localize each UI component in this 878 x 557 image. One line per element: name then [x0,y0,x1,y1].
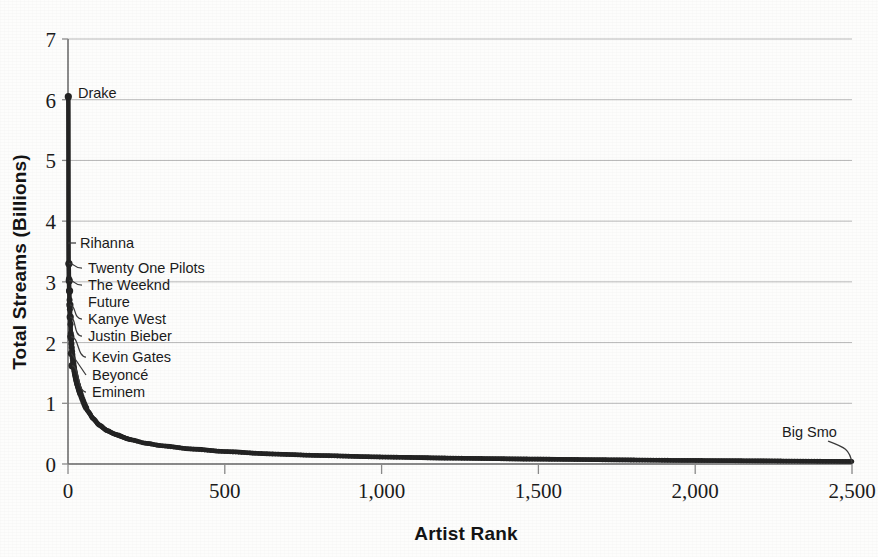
x-tick-label: 2,000 [672,479,719,503]
x-axis-ticks: 05001,0001,5002,0002,500 [63,464,876,503]
artist-label: Big Smo [782,424,837,440]
annotated-data-point [65,93,72,100]
data-points [65,93,854,464]
x-tick-label: 2,500 [828,479,875,503]
y-tick-label: 1 [46,392,57,416]
x-axis-title: Artist Rank [414,523,518,544]
y-tick-label: 6 [46,89,57,113]
x-tick-label: 1,500 [515,479,562,503]
x-tick-label: 0 [63,479,74,503]
annotated-data-point [66,301,73,308]
streams-vs-rank-chart: 01234567 05001,0001,5002,0002,500 DrakeR… [0,0,878,557]
artist-label: Future [88,294,130,310]
y-tick-label: 2 [46,332,57,356]
y-tick-label: 0 [46,453,57,477]
annotated-data-point [66,287,73,294]
streams-curve [68,97,852,462]
artist-label: Justin Bieber [88,328,172,344]
artist-label: Eminem [92,384,145,400]
artist-label: Beyoncé [92,367,148,383]
annotation-leader-lines [68,243,852,463]
y-tick-label: 5 [46,149,57,173]
x-tick-label: 1,000 [358,479,405,503]
artist-label: Drake [78,85,117,101]
y-axis-ticks: 01234567 [46,28,69,477]
artist-label: Twenty One Pilots [88,260,205,276]
annotation-labels: DrakeRihannaTwenty One PilotsThe WeekndF… [78,85,837,440]
artist-label: Kanye West [88,311,166,327]
artist-label: Kevin Gates [92,349,171,365]
data-curve [68,97,852,462]
y-tick-label: 3 [46,271,57,295]
y-tick-label: 7 [46,28,57,52]
gridlines [68,39,852,464]
artist-label: The Weeknd [88,277,170,293]
chart-container: 01234567 05001,0001,5002,0002,500 DrakeR… [0,0,878,557]
axes [68,39,852,464]
y-tick-label: 4 [46,210,57,234]
x-tick-label: 500 [209,479,241,503]
y-axis-title: Total Streams (Billions) [9,154,30,370]
artist-label: Rihanna [80,235,135,251]
